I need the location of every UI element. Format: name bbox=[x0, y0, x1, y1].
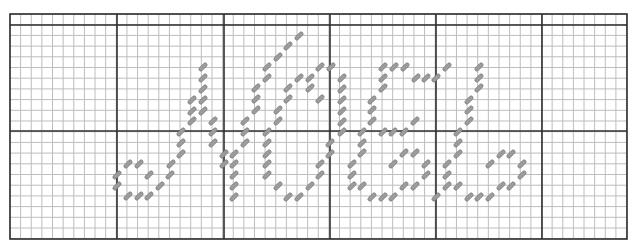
stitch bbox=[378, 192, 388, 202]
stitch bbox=[251, 83, 261, 93]
stitch bbox=[357, 181, 367, 191]
stitch bbox=[464, 192, 474, 202]
minor-grid-lines bbox=[10, 14, 627, 239]
stitch bbox=[294, 192, 304, 202]
stitch bbox=[337, 106, 347, 116]
stitch bbox=[367, 192, 377, 202]
stitch bbox=[453, 149, 463, 159]
stitch bbox=[378, 83, 388, 93]
stitch bbox=[453, 138, 463, 148]
stitch bbox=[283, 94, 293, 104]
stitch bbox=[305, 181, 315, 191]
stitch bbox=[506, 181, 516, 191]
stitch bbox=[305, 83, 315, 93]
stitch bbox=[496, 181, 506, 191]
stitch bbox=[347, 181, 357, 191]
stitch bbox=[240, 138, 250, 148]
stitch bbox=[198, 106, 208, 116]
stitch bbox=[176, 149, 186, 159]
cross-stitch-chart bbox=[0, 0, 637, 247]
stitch bbox=[262, 149, 272, 159]
stitch bbox=[357, 138, 367, 148]
stitch bbox=[474, 192, 484, 202]
stitch bbox=[187, 106, 197, 116]
stitch bbox=[229, 181, 239, 191]
stitch bbox=[229, 192, 239, 202]
stitch bbox=[229, 149, 239, 159]
stitch bbox=[294, 31, 304, 41]
stitch bbox=[506, 149, 516, 159]
stitch bbox=[442, 181, 452, 191]
stitch bbox=[283, 192, 293, 202]
stitch bbox=[155, 181, 165, 191]
stitch bbox=[496, 149, 506, 159]
stitch bbox=[273, 181, 283, 191]
stitch bbox=[315, 94, 325, 104]
stitch bbox=[251, 94, 261, 104]
stitch bbox=[337, 117, 347, 127]
stitch bbox=[208, 138, 218, 148]
stitch bbox=[410, 181, 420, 191]
stitch bbox=[176, 138, 186, 148]
stitch bbox=[453, 181, 463, 191]
stitch bbox=[262, 138, 272, 148]
stitch bbox=[283, 83, 293, 93]
stitch bbox=[474, 83, 484, 93]
stitch bbox=[485, 192, 495, 202]
stitch bbox=[399, 181, 409, 191]
